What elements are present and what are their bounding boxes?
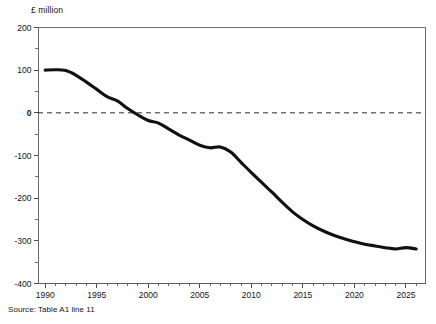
y-axis-ticks bbox=[34, 28, 39, 284]
y-tick-label: 0 bbox=[27, 108, 32, 118]
x-tick-label: 1990 bbox=[36, 290, 55, 300]
source-note: Source: Table A1 line 11 bbox=[8, 305, 95, 314]
x-tick-label: 2020 bbox=[345, 290, 364, 300]
chart-screenshot: £ million 2001000-100-200-300-400 199019… bbox=[0, 0, 436, 324]
data-series-layer bbox=[45, 70, 416, 249]
x-tick-label: 2015 bbox=[293, 290, 312, 300]
chart-plot-area: 2001000-100-200-300-400 1990199520002005… bbox=[0, 0, 436, 324]
x-axis-ticks bbox=[45, 284, 416, 289]
x-tick-label: 2000 bbox=[139, 290, 158, 300]
x-tick-label: 2005 bbox=[190, 290, 209, 300]
y-tick-label: 100 bbox=[17, 65, 31, 75]
x-tick-label: 1995 bbox=[87, 290, 106, 300]
y-tick-label: -400 bbox=[14, 279, 31, 289]
x-axis-tick-labels: 19901995200020052010201520202025 bbox=[36, 290, 416, 300]
y-tick-label: 200 bbox=[17, 23, 31, 33]
series-line bbox=[45, 70, 416, 249]
y-tick-label: -200 bbox=[14, 193, 31, 203]
x-tick-label: 2010 bbox=[242, 290, 261, 300]
y-tick-label: -100 bbox=[14, 151, 31, 161]
y-axis-tick-labels: 2001000-100-200-300-400 bbox=[14, 23, 31, 289]
x-tick-label: 2025 bbox=[396, 290, 415, 300]
y-tick-label: -300 bbox=[14, 236, 31, 246]
line-chart-figure: £ million 2001000-100-200-300-400 199019… bbox=[0, 0, 436, 324]
